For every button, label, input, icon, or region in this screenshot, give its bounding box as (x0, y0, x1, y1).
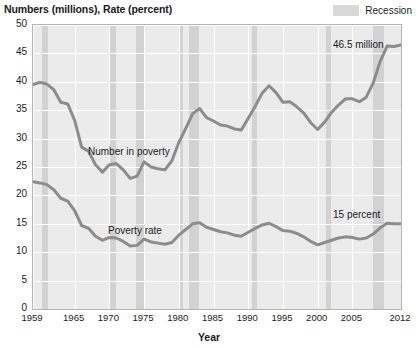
y-tick-label: 5 (1, 275, 27, 285)
gridline-horizontal (33, 309, 401, 310)
y-tick-label: 10 (1, 246, 27, 256)
x-tick-label: 2012 (380, 313, 418, 323)
annotation-end-rate: 15 percent (333, 209, 380, 220)
y-tick-label: 30 (1, 133, 27, 143)
plot-area (32, 24, 402, 310)
y-tick-label: 45 (1, 47, 27, 57)
annotation-poverty-rate: Poverty rate (108, 225, 162, 236)
y-tick-label: 35 (1, 104, 27, 114)
y-tick-label: 25 (1, 161, 27, 171)
series-lines (33, 25, 401, 309)
annotation-number-in-poverty: Number in poverty (88, 146, 170, 157)
y-axis-title: Numbers (millions), Rate (percent) (4, 3, 172, 15)
gridline-vertical (401, 25, 402, 309)
legend: Recession (333, 5, 412, 16)
x-tick-label: 1959 (12, 313, 52, 323)
y-tick-label: 15 (1, 218, 27, 228)
legend-label-recession: Recession (365, 5, 412, 16)
x-tick-label: 2005 (331, 313, 371, 323)
recession-swatch-icon (333, 5, 359, 16)
y-tick-label: 40 (1, 76, 27, 86)
annotation-end-number: 46.5 million (333, 39, 384, 50)
series-line-number-in-poverty (33, 45, 401, 178)
y-tick-label: 50 (1, 19, 27, 29)
poverty-chart-figure: Numbers (millions), Rate (percent) Reces… (0, 0, 418, 348)
x-axis-title: Year (0, 331, 418, 343)
y-tick-label: 20 (1, 189, 27, 199)
